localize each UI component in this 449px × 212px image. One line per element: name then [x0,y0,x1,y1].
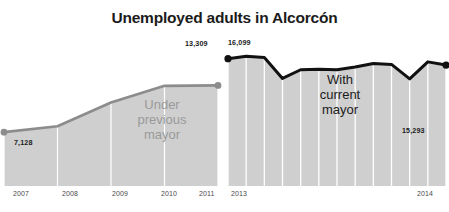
x-tick-2007: 2007 [13,190,29,197]
annotation-under-previous-mayor: Under previous mayor [120,97,204,142]
annotation-with-current-mayor: With current mayor [300,72,380,117]
annotation-left-line-2: previous [120,112,204,127]
data-label-15293: 15,293 [402,126,425,135]
chart-title: Unemployed adults in Alcorcón [0,9,449,27]
area-chart-current-mayor [228,38,446,198]
x-tick-2011: 2011 [199,190,214,197]
x-tick-2013: 2013 [231,190,247,197]
x-tick-2008: 2008 [62,190,78,197]
x-tick-2009: 2009 [112,190,128,197]
annotation-right-line-1: With [300,72,380,87]
data-label-16099: 16,099 [228,38,251,47]
x-tick-2014: 2014 [417,190,433,197]
annotation-right-line-2: current [300,87,380,102]
x-tick-2010: 2010 [161,190,177,197]
data-label-13309: 13,309 [185,39,208,48]
annotation-left-line-3: mayor [120,127,204,142]
data-label-7128: 7,128 [14,138,33,147]
chart-figure: Unemployed adults in Alcorcón 7,128 13,3… [0,0,449,212]
annotation-left-line-1: Under [120,97,204,112]
chart-panel-current-mayor [228,38,446,198]
annotation-right-line-3: mayor [300,102,380,117]
